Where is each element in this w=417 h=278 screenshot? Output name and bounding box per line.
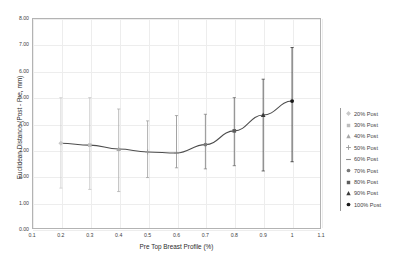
legend-item-label: 30% Post	[354, 122, 378, 128]
data-point-cross	[145, 149, 150, 154]
x-tick-label: 0.4	[115, 232, 122, 238]
legend-item[interactable]: 90% Post	[345, 188, 417, 199]
triangle-icon	[345, 133, 352, 140]
data-point-circle	[203, 143, 207, 147]
legend-item[interactable]: 60% Post	[345, 154, 417, 165]
error-bar	[175, 116, 178, 168]
x-tick-label: 1	[291, 232, 294, 238]
legend-item[interactable]: 30% Post	[345, 119, 417, 130]
data-point-diamond	[58, 141, 63, 146]
legend-item[interactable]: 20% Post	[345, 108, 417, 119]
x-axis-label: Pre Top Breast Profile (%)	[32, 243, 321, 250]
y-axis-label: Euclidean Distance (Post - Pre, mm)	[16, 53, 23, 203]
error-bar	[146, 121, 149, 178]
chart-container: 0.001.002.003.004.005.006.007.008.00 0.1…	[0, 0, 417, 278]
legend-item[interactable]: 100% Post	[345, 199, 417, 210]
legend-item-label: 40% Post	[354, 133, 378, 139]
error-bar	[262, 79, 265, 171]
data-point-triangle	[346, 134, 350, 138]
y-tick-label: 8.00	[19, 15, 29, 21]
legend-item-label: 90% Post	[354, 190, 378, 196]
x-tick-label: 0.9	[260, 232, 267, 238]
cross-icon	[345, 144, 352, 151]
data-point-square	[233, 129, 237, 133]
y-tick-label: 7.00	[19, 41, 29, 47]
legend-item-label: 70% Post	[354, 168, 378, 174]
square-icon	[345, 179, 352, 186]
data-point-square	[347, 180, 350, 183]
gridline-vertical	[322, 19, 323, 228]
data-point-circle	[347, 203, 351, 207]
legend-item-label: 80% Post	[354, 179, 378, 185]
legend-item[interactable]: 40% Post	[345, 131, 417, 142]
square-icon	[345, 122, 352, 129]
diamond-icon	[345, 110, 352, 117]
data-series	[32, 18, 321, 229]
x-tick-label: 0.5	[144, 232, 151, 238]
circle-icon	[345, 201, 352, 208]
x-tick-label: 0.8	[231, 232, 238, 238]
x-tick-label: 0.3	[86, 232, 93, 238]
x-tick-label: 0.1	[28, 232, 35, 238]
data-point-diamond	[346, 111, 351, 116]
legend-item-label: 50% Post	[354, 145, 378, 151]
data-point-square	[88, 143, 92, 147]
data-point-circle	[290, 99, 294, 103]
data-point-triangle	[346, 191, 350, 195]
dash-icon	[345, 156, 352, 163]
x-tick-label: 0.6	[173, 232, 180, 238]
data-point-circle	[347, 169, 351, 173]
legend-item-label: 20% Post	[354, 111, 378, 117]
legend-item[interactable]: 50% Post	[345, 142, 417, 153]
data-point-cross	[346, 145, 351, 150]
gridline-horizontal	[33, 230, 320, 231]
legend-item[interactable]: 70% Post	[345, 165, 417, 176]
triangle-icon	[345, 190, 352, 197]
error-bar	[291, 48, 294, 162]
legend-item-label: 60% Post	[354, 156, 378, 162]
x-tick-label: 0.2	[57, 232, 64, 238]
x-tick-label: 1.1	[317, 232, 324, 238]
error-bar	[204, 114, 207, 169]
x-tick-label: 0.7	[202, 232, 209, 238]
chart-legend: 20% Post30% Post40% Post50% Post60% Post…	[340, 108, 417, 211]
legend-item-label: 100% Post	[354, 202, 381, 208]
circle-icon	[345, 167, 352, 174]
legend-item[interactable]: 80% Post	[345, 176, 417, 187]
data-point-square	[347, 123, 350, 126]
